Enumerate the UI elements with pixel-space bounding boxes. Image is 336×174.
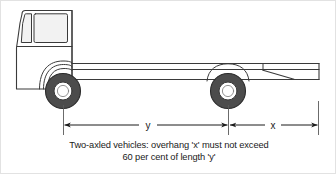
dimension-label-y: y	[146, 120, 151, 131]
chassis-rear-taper	[263, 70, 294, 79]
front-hub	[57, 85, 68, 96]
caption-line-2: 60 per cent of length 'y'	[1, 151, 336, 163]
diagram-caption: Two-axled vehicles: overhang 'x' must no…	[1, 139, 336, 163]
caption-line-1: Two-axled vehicles: overhang 'x' must no…	[1, 139, 336, 151]
dimension-annotations: y x	[64, 101, 319, 135]
rear-wheel	[207, 64, 249, 109]
rear-hub	[222, 85, 233, 96]
cab-main-window	[34, 14, 68, 43]
diagram-page: y x Two-axled vehicles: overhang 'x' mus…	[0, 0, 336, 174]
front-wheel	[46, 74, 81, 109]
dimension-label-x: x	[271, 120, 276, 131]
truck-illustration	[17, 11, 320, 109]
